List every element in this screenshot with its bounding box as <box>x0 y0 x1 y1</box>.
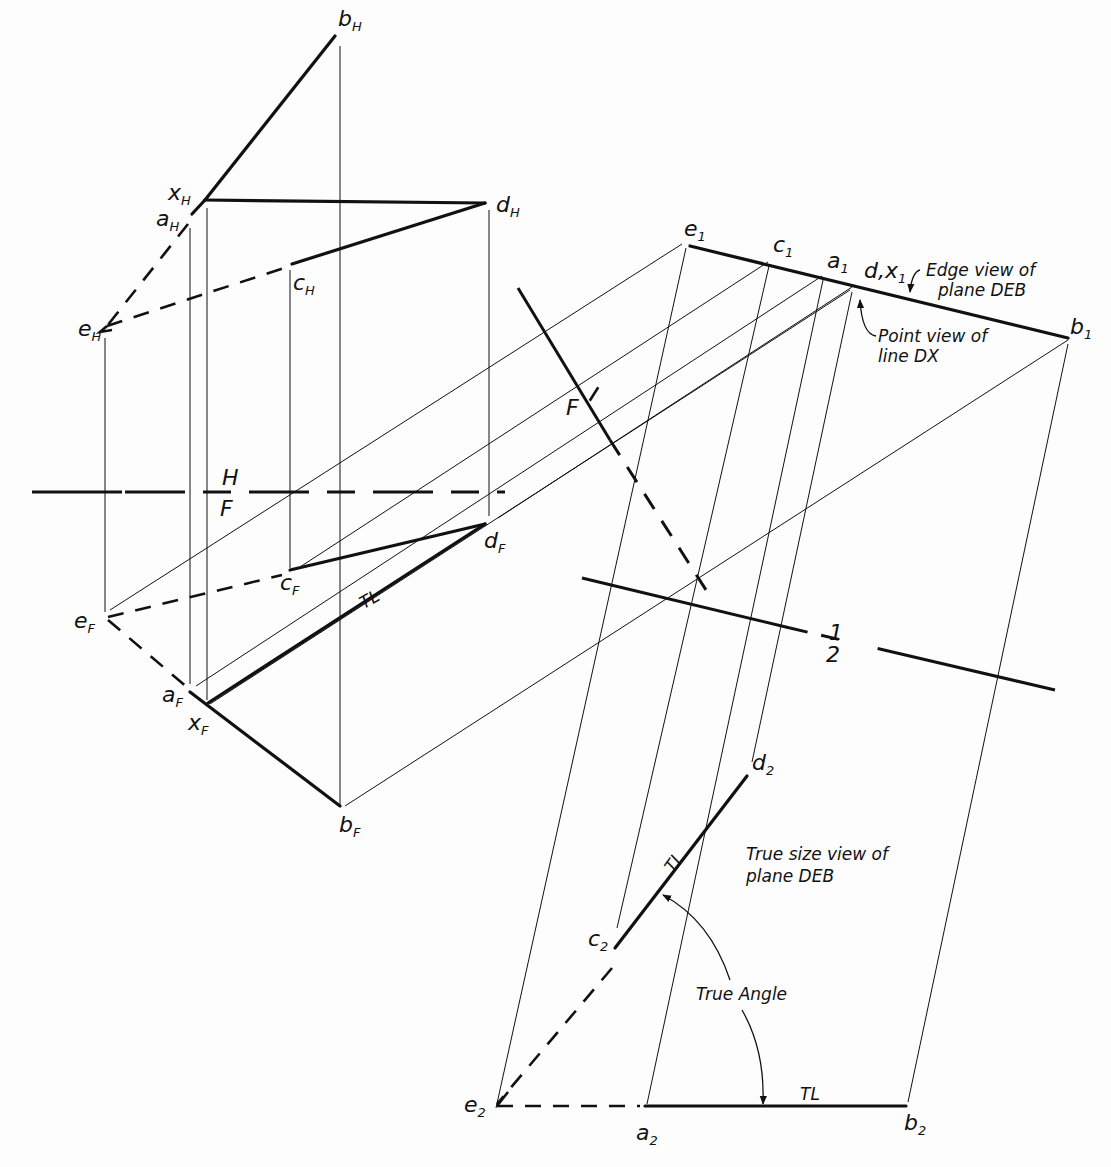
descriptive-geometry-drawing: bH xH aH dH cH eH dF cF eF aF xF bF e1 c… <box>0 0 1111 1167</box>
true-angle-note: True Angle <box>696 984 787 1004</box>
line-dc-top <box>292 203 485 264</box>
fold-12-bottom: 2 <box>826 642 840 667</box>
tl-view2-cd: TL <box>660 848 688 876</box>
line-ec-front-hidden <box>108 575 282 617</box>
tl-view2-ab: TL <box>800 1084 820 1104</box>
fold-F1-bottom: F <box>566 395 579 420</box>
label-aH: aH <box>156 206 179 234</box>
true-size-note-1: True size view of <box>746 844 891 864</box>
label-eH: eH <box>78 316 102 344</box>
label-cF: cF <box>280 570 300 598</box>
label-d2: d2 <box>752 750 774 778</box>
tl-front: TL <box>356 586 383 613</box>
label-d1x1: d,x1 <box>864 258 906 286</box>
label-cH: cH <box>293 270 315 298</box>
projector-c-12 <box>617 266 769 928</box>
true-size-note-2: plane DEB <box>745 866 834 886</box>
label-bH: bH <box>338 6 362 34</box>
object-lines <box>190 36 1068 1106</box>
projector-d-12 <box>752 292 852 762</box>
point-view-leader <box>860 300 876 336</box>
edge-view-note-2: plane DEB <box>937 280 1026 300</box>
label-c2: c2 <box>588 926 608 954</box>
label-aF: aF <box>162 682 183 710</box>
fold-HF-bottom: F <box>220 496 233 521</box>
edge-view-leader <box>910 270 920 292</box>
projector-b-f1 <box>345 340 1068 806</box>
line-cd-front <box>290 524 485 570</box>
label-eF: eF <box>74 608 96 636</box>
line-ec-top-hidden <box>107 266 290 326</box>
point-view-note-1: Point view of <box>878 326 990 346</box>
fold-HF-top: H <box>222 465 239 490</box>
line-ce-view2-hidden <box>497 968 612 1104</box>
true-angle-leader-bottom <box>742 1010 763 1104</box>
label-xF: xF <box>187 710 209 738</box>
projector-c-f1 <box>300 262 768 567</box>
line-ae-top-hidden <box>107 224 188 326</box>
label-bF: bF <box>339 812 361 840</box>
line-xb-top <box>205 36 335 200</box>
edge-view-note-1: Edge view of <box>926 260 1038 280</box>
line-xd-front <box>208 524 485 703</box>
label-e1: e1 <box>684 216 706 244</box>
label-b1: b1 <box>1070 314 1092 342</box>
line-ea-front-hidden <box>108 620 188 688</box>
line-ax-top <box>192 200 205 214</box>
projector-b-12 <box>908 344 1068 1102</box>
annotations: TL TL TL Edge view of plane DEB Point vi… <box>356 260 1038 1104</box>
drawing-svg: bH xH aH dH cH eH dF cF eF aF xF bF e1 c… <box>0 0 1111 1167</box>
projection-lines <box>105 46 1068 1108</box>
label-dH: dH <box>496 192 520 220</box>
line-xd-top <box>205 200 485 203</box>
projector-d-f1 <box>498 287 852 518</box>
label-e2: e2 <box>464 1092 486 1120</box>
leaders <box>663 270 920 1104</box>
label-a1: a1 <box>827 248 849 276</box>
fold-F1-tick <box>590 387 598 401</box>
label-dF: dF <box>484 528 506 556</box>
label-b2: b2 <box>904 1110 926 1138</box>
line-ab-front <box>190 692 340 806</box>
true-angle-leader-top <box>663 895 730 980</box>
label-c1: c1 <box>773 232 793 260</box>
label-xH: xH <box>167 180 191 208</box>
label-a2: a2 <box>636 1120 658 1148</box>
point-view-note-2: line DX <box>878 346 939 366</box>
